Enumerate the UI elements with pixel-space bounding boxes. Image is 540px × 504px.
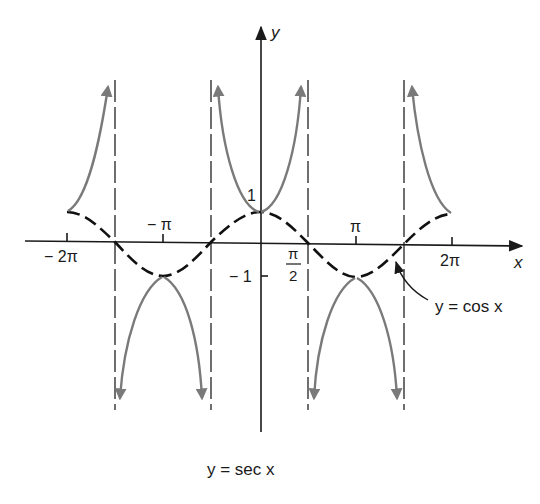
tick-label-y-1: 1 [247,187,256,204]
sec-branch-4-left [314,278,355,398]
sec-branch-5 [412,87,451,213]
x-axis-label: x [513,253,523,272]
cos-annotation: y = cos x [435,297,503,316]
tick-label-pi-over-2: π 2 [286,245,301,284]
sec-branch-4-right [357,278,397,398]
tick-label-neg-pi: − π [147,216,172,233]
sec-branch-3-right [261,87,301,212]
tick-label-y-neg1: − 1 [229,268,252,285]
sec-annotation: y = sec x [207,460,275,479]
y-axis-label: y [270,23,281,42]
sec-branch-2-right [164,277,202,398]
cos-annotation-text: y = cos x [435,297,503,316]
sec-branch-1 [68,87,108,211]
tick-label-pi: π [350,218,361,235]
x-axis [25,241,522,246]
fraction-denominator: 2 [289,267,297,284]
axes [25,27,522,432]
sec-cos-graph: y x − 2π − π π 2π π 2 1 − 1 y = cos x y … [0,0,540,504]
tick-label-2pi: 2π [440,252,460,269]
fraction-numerator: π [288,245,298,262]
cos-pointer-arrow [396,262,428,300]
tick-label-neg-2pi: − 2π [44,248,78,265]
sec-branch-2-left [120,277,162,398]
